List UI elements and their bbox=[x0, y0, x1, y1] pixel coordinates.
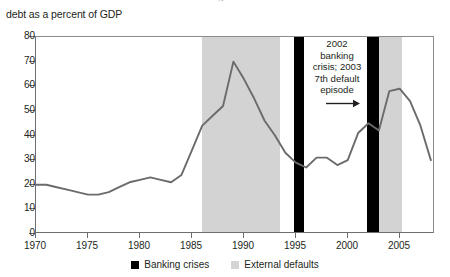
x-tick-mark bbox=[139, 233, 140, 238]
legend-item: External defaults bbox=[231, 259, 319, 270]
x-tick-mark bbox=[347, 233, 348, 238]
y-tick-label: 50 bbox=[13, 105, 35, 115]
annotation-line-3: crisis; 2003 bbox=[300, 61, 374, 73]
legend: Banking crisesExternal defaults bbox=[0, 259, 450, 270]
legend-item: Banking crises bbox=[131, 259, 209, 270]
plot-area bbox=[35, 36, 434, 233]
y-tick-label: 10 bbox=[13, 203, 35, 213]
x-tick-mark bbox=[399, 233, 400, 238]
x-tick-label: 1985 bbox=[171, 240, 211, 251]
x-tick-label: 2000 bbox=[327, 240, 367, 251]
x-tick-label: 1970 bbox=[15, 240, 55, 251]
annotation-line-4: 7th default bbox=[300, 73, 374, 85]
chart-annotation: 2002 banking crisis; 2003 7th default ep… bbox=[300, 38, 374, 96]
y-tick-label: 30 bbox=[13, 154, 35, 164]
gray-square-icon bbox=[231, 261, 239, 269]
black-square-icon bbox=[131, 261, 139, 269]
y-tick-label: 20 bbox=[13, 179, 35, 189]
arrow-right-icon bbox=[326, 99, 360, 108]
x-tick-mark bbox=[87, 233, 88, 238]
x-tick-label: 2005 bbox=[379, 240, 419, 251]
y-tick-label: 40 bbox=[13, 130, 35, 140]
annotation-line-2: banking bbox=[300, 50, 374, 62]
x-tick-label: 1990 bbox=[223, 240, 263, 251]
annotation-line-5: episode bbox=[300, 84, 374, 96]
y-tick-label: 80 bbox=[13, 31, 35, 41]
x-tick-label: 1995 bbox=[275, 240, 315, 251]
x-tick-mark bbox=[191, 233, 192, 238]
x-tick-mark bbox=[35, 233, 36, 238]
x-tick-mark bbox=[295, 233, 296, 238]
x-tick-label: 1980 bbox=[119, 240, 159, 251]
x-tick-mark bbox=[243, 233, 244, 238]
x-tick-label: 1975 bbox=[67, 240, 107, 251]
legend-label: Banking crises bbox=[144, 259, 209, 270]
cropped-title-remnant: Argentina bbox=[150, 0, 310, 1]
y-tick-label: 70 bbox=[13, 56, 35, 66]
y-tick-label: 60 bbox=[13, 80, 35, 90]
legend-label: External defaults bbox=[244, 259, 319, 270]
figure-argentina-debt: Argentina debt as a percent of GDP 01020… bbox=[0, 0, 450, 277]
annotation-line-1: 2002 bbox=[300, 38, 374, 50]
